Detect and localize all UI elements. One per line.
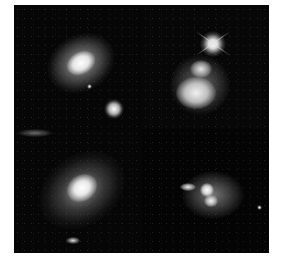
small-star xyxy=(87,84,92,89)
interacting-galaxy-upper xyxy=(190,60,212,78)
panel-merging-galaxy xyxy=(142,129,269,253)
panel-interacting-galaxies xyxy=(142,5,269,129)
small-galaxy-bottom xyxy=(66,237,80,244)
galaxy-image-grid xyxy=(14,5,269,253)
elongated-galaxy xyxy=(180,183,196,191)
companion-galaxy xyxy=(104,99,124,119)
smudge-top-left xyxy=(18,129,52,137)
small-star xyxy=(257,205,262,210)
panel-spiral-galaxy xyxy=(14,5,142,129)
panel-elliptical-galaxy xyxy=(14,129,142,253)
interacting-galaxy-lower xyxy=(176,77,216,109)
merging-nucleus-2 xyxy=(204,195,218,207)
